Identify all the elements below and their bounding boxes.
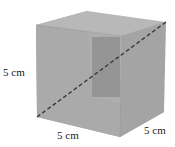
width-label: 5 cm — [57, 130, 79, 141]
depth-label: 5 cm — [144, 125, 166, 136]
height-label: 5 cm — [3, 67, 25, 78]
cube-figure: 5 cm 5 cm 5 cm — [0, 0, 175, 147]
